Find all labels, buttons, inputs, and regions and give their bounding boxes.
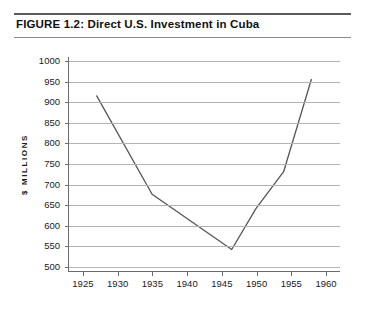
y-tick-mark (65, 143, 69, 144)
x-axis-tick-label: 1940 (177, 279, 198, 289)
y-gridline (69, 246, 340, 247)
x-tick-mark (222, 272, 223, 276)
y-axis-title: $ MILLIONS (17, 57, 31, 272)
x-tick-mark (326, 272, 327, 276)
y-tick-mark (65, 185, 69, 186)
figure-container: FIGURE 1.2: Direct U.S. Investment in Cu… (0, 0, 365, 327)
y-axis-tick-label: 650 (44, 200, 60, 210)
x-axis-tick-label: 1930 (107, 279, 128, 289)
y-gridline (69, 143, 340, 144)
page-title: FIGURE 1.2: Direct U.S. Investment in Cu… (16, 18, 351, 30)
y-axis-title-label: $ MILLIONS (20, 134, 29, 195)
y-axis-tick-label: 700 (44, 180, 60, 190)
title-rule-top (14, 13, 351, 15)
title-rule-bottom (14, 37, 351, 38)
y-axis-tick-label: 950 (44, 77, 60, 87)
y-gridline (69, 61, 340, 62)
y-axis-tick-label: 1000 (39, 56, 60, 66)
y-tick-mark (65, 267, 69, 268)
x-axis-tick-label: 1950 (246, 279, 267, 289)
x-tick-mark (83, 272, 84, 276)
y-tick-mark (65, 164, 69, 165)
y-tick-mark (65, 246, 69, 247)
y-axis-tick-label: 800 (44, 139, 60, 149)
x-tick-mark (187, 272, 188, 276)
y-gridline (69, 226, 340, 227)
y-tick-mark (65, 123, 69, 124)
y-axis-tick-label: 900 (44, 98, 60, 108)
x-axis-tick-label: 1960 (316, 279, 337, 289)
y-tick-mark (65, 226, 69, 227)
y-gridline (69, 164, 340, 165)
y-tick-mark (65, 102, 69, 103)
y-axis-tick-label: 500 (44, 262, 60, 272)
x-axis-tick-label: 1925 (72, 279, 93, 289)
y-gridline (69, 82, 340, 83)
y-axis-tick-label: 600 (44, 221, 60, 231)
y-gridline (69, 123, 340, 124)
x-axis-tick-label: 1945 (211, 279, 232, 289)
x-tick-mark (257, 272, 258, 276)
y-gridline (69, 267, 340, 268)
x-axis-tick-label: 1955 (281, 279, 302, 289)
y-axis-tick-label: 550 (44, 242, 60, 252)
y-gridline (69, 185, 340, 186)
x-tick-mark (118, 272, 119, 276)
y-axis-tick-label: 750 (44, 159, 60, 169)
y-tick-mark (65, 82, 69, 83)
y-gridline (69, 102, 340, 103)
x-axis-tick-label: 1935 (142, 279, 163, 289)
y-gridline (69, 205, 340, 206)
plot-area: 5005506006507007508008509009501000192519… (68, 57, 340, 272)
y-axis-tick-label: 850 (44, 118, 60, 128)
x-tick-mark (291, 272, 292, 276)
x-tick-mark (152, 272, 153, 276)
y-tick-mark (65, 61, 69, 62)
y-tick-mark (65, 205, 69, 206)
